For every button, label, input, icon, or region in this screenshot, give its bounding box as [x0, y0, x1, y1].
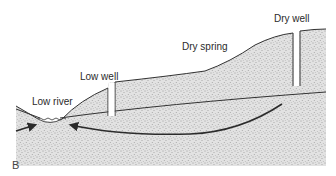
low-well-shaft	[108, 82, 115, 116]
dry-spring-label: Dry spring	[182, 42, 228, 52]
low-well-label: Low well	[80, 72, 118, 82]
groundwater-diagram: Low river Low well Dry spring Dry well B	[0, 0, 336, 176]
cross-section-svg	[0, 0, 336, 176]
dry-well-shaft	[293, 31, 300, 86]
panel-label: B	[12, 160, 19, 171]
dry-well-label: Dry well	[274, 14, 310, 24]
low-river-label: Low river	[32, 97, 73, 107]
